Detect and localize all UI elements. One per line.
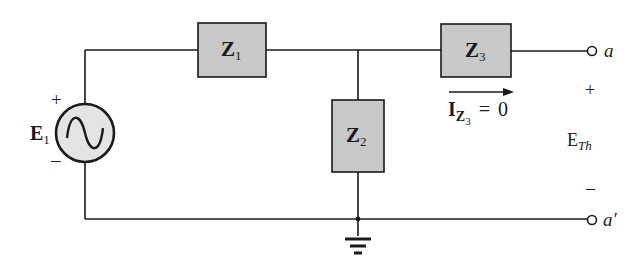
source-label: E1 <box>30 122 50 147</box>
source-plus-sign: + <box>51 89 62 110</box>
impedance-z2: Z2 <box>332 100 384 172</box>
junction-dot <box>356 217 361 222</box>
ac-source <box>56 104 114 162</box>
terminal-a-prime <box>588 216 597 225</box>
ground-icon <box>345 239 371 253</box>
current-label: IZ3=0 <box>448 98 508 127</box>
current-arrow-icon <box>449 88 514 96</box>
circuit-diagram: + – E1 Z1 Z2 Z3 IZ3=0 a a′ + ETh – <box>0 0 641 275</box>
impedance-z3: Z3 <box>441 24 511 77</box>
terminal-a <box>588 47 597 56</box>
terminal-a-prime-label: a′ <box>603 209 618 230</box>
impedance-z1: Z1 <box>198 23 266 77</box>
eth-label: ETh <box>567 130 592 153</box>
eth-minus-sign: – <box>585 178 596 198</box>
eth-plus-sign: + <box>585 80 595 100</box>
terminal-a-label: a <box>604 40 614 61</box>
source-minus-sign: – <box>50 149 61 170</box>
